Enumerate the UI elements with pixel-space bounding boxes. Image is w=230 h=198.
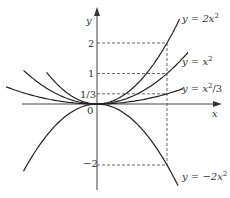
tick-label-2: 2: [88, 38, 94, 49]
x-axis-label: x: [212, 108, 218, 119]
parabola-chart: y x 0 2 1 1/3 −2 y = 2x2 y = x2 y = x2/3…: [0, 0, 230, 198]
tick-label-1: 1: [88, 68, 94, 79]
x-axis-arrow-icon: [213, 101, 222, 107]
legend-x2-3: y = x2/3: [181, 82, 222, 94]
tick-label-neg2: −2: [83, 158, 98, 169]
origin-label: 0: [87, 105, 93, 116]
y-axis-label: y: [85, 15, 92, 26]
tick-label-1-3: 1/3: [80, 89, 96, 100]
curve-2x2: [47, 19, 180, 104]
legend-x2: y = x2: [181, 55, 213, 67]
legend-2x2: y = 2x2: [181, 12, 219, 24]
y-axis-arrow-icon: [94, 7, 100, 16]
legend-neg2x2: y = −2x2: [181, 170, 227, 182]
curve-neg2x2: [24, 104, 179, 186]
curve-x2: [24, 53, 189, 105]
